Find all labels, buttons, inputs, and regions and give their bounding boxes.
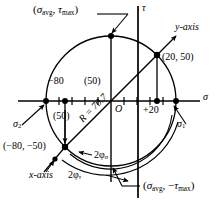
label-two-phi-tau: 2φτ <box>68 170 81 181</box>
mohrs-circle-figure: (σavg, τmax) τ y-axis (20, 50) −80 (50) … <box>0 0 217 206</box>
label-two-phi-sigma-sub: σ <box>105 153 108 160</box>
label-sigma-1-sub: 1 <box>182 122 185 129</box>
point-sigma-1 <box>173 98 179 104</box>
label-paren-50-upper: (50) <box>84 76 101 86</box>
leader-bottom-point <box>113 168 140 186</box>
label-point-minus80-minus50: (−80, −50) <box>3 141 46 151</box>
label-point-20-50: (20, 50) <box>162 52 194 62</box>
leader-top-point <box>97 14 128 33</box>
label-tick-minus-80: −80 <box>48 76 64 86</box>
label-paren-50-lower: (50) <box>53 111 70 121</box>
label-sigma-2: σ2 <box>13 119 21 130</box>
label-tick-plus-20: +20 <box>143 105 159 115</box>
label-top-tau-sub: max <box>62 9 74 17</box>
label-two-phi-sigma: 2φσ <box>94 150 108 161</box>
label-bottom-comma: , − <box>163 179 175 191</box>
label-y-axis: y-axis <box>175 22 199 32</box>
label-sigma-avg-minus-tau-max: (σavg, −τmax) <box>143 180 194 193</box>
label-x-axis: x-axis <box>29 170 53 180</box>
label-bottom-tau-sub: max <box>178 185 190 193</box>
label-sigma-avg-tau-max: (σavg, τmax) <box>33 4 78 17</box>
leader-two-phi-sigma <box>79 152 92 155</box>
x-axis-ray-dot <box>52 156 57 161</box>
label-top-close: ) <box>75 3 79 15</box>
label-two-phi-tau-sub: τ <box>79 173 81 180</box>
label-top-sigma-sub: avg <box>42 9 52 17</box>
axis-label-tau: τ <box>142 3 146 13</box>
label-origin: O <box>115 104 122 114</box>
label-two-phi-tau-base: 2φ <box>68 169 79 180</box>
point-sigma-2 <box>43 98 49 104</box>
label-bottom-sigma-sub: avg <box>152 185 162 193</box>
label-sigma-1: σ1 <box>177 119 185 130</box>
leader-sigma-2 <box>22 105 44 125</box>
label-two-phi-sigma-base: 2φ <box>94 149 105 160</box>
point-tick-minus80 <box>62 98 68 104</box>
axis-label-sigma: σ <box>203 92 208 102</box>
label-bottom-close: ) <box>191 179 195 191</box>
label-sigma-2-sub: 2 <box>18 122 21 129</box>
two-phi-tau-arc <box>62 122 178 175</box>
point-sigma-avg-tau-max <box>108 33 114 39</box>
